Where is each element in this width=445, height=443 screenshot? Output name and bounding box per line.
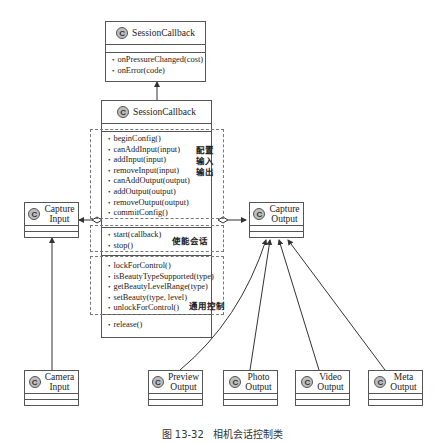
class-name-line: Camera [45, 372, 75, 382]
class-header: C Preview Output [149, 371, 202, 394]
class-name-line: Capture [44, 204, 74, 214]
methods-section [369, 400, 422, 405]
figure-caption: 图 13-32 相机会话控制类 [0, 426, 445, 441]
class-name-line: Output [170, 382, 196, 392]
class-preview-output: C Preview Output [148, 370, 203, 406]
class-name: Capture Input [44, 204, 74, 224]
class-header: C Capture Output [250, 203, 303, 226]
method: onError(code) [106, 66, 205, 77]
methods-section [25, 400, 78, 405]
class-header: C Photo Output [224, 371, 277, 394]
methods-section [224, 400, 277, 405]
other-methods: release() [102, 320, 142, 331]
class-icon: C [28, 208, 40, 220]
class-icon: C [253, 208, 265, 220]
class-name: SessionCallback [132, 28, 195, 38]
class-name: Meta Output [390, 372, 416, 392]
class-icon: C [116, 27, 128, 39]
class-name: Preview Output [168, 372, 199, 392]
note-enable: 使能会话 [172, 236, 208, 247]
methods-section [296, 400, 349, 405]
methods-section [149, 400, 202, 405]
attributes-section [106, 45, 205, 53]
class-name: SessionCallback [133, 107, 196, 117]
class-session-callback-top: C SessionCallback onPressureChanged(cost… [105, 21, 206, 82]
video-output-line [279, 240, 319, 370]
class-name-line: Output [271, 214, 297, 224]
method: release() [102, 320, 142, 331]
class-name-line: Meta [394, 372, 414, 382]
class-icon: C [117, 106, 129, 118]
methods-section [250, 232, 303, 237]
class-name-line: Input [49, 214, 69, 224]
class-name: Video Output [317, 372, 343, 392]
class-video-output: C Video Output [295, 370, 350, 406]
class-name-line: Output [390, 382, 416, 392]
class-header: C SessionCallback [106, 22, 205, 45]
class-header: C Camera Input [25, 371, 78, 394]
class-capture-output: C Capture Output [249, 202, 304, 238]
class-icon: C [152, 376, 164, 388]
class-name-line: Output [245, 382, 271, 392]
class-name-line: Output [317, 382, 343, 392]
class-name-line: Video [319, 372, 342, 382]
class-header: C Video Output [296, 371, 349, 394]
note-config: 配置 输入 输出 [196, 145, 214, 178]
class-icon: C [29, 376, 41, 388]
class-header: C Meta Output [369, 371, 422, 394]
class-name: Capture Output [269, 204, 299, 224]
class-header: C SessionCallback [102, 101, 211, 124]
class-name: Camera Input [45, 372, 75, 392]
method: onPressureChanged(cost) [106, 55, 205, 66]
class-capture-input: C Capture Input [24, 202, 79, 238]
meta-output-line [288, 240, 385, 370]
note-control: 通用控制 [189, 301, 225, 312]
class-name-line: Photo [247, 372, 269, 382]
class-name-line: Capture [269, 204, 299, 214]
class-name: Photo Output [245, 372, 271, 392]
class-name-line: Input [49, 382, 69, 392]
photo-output-line [250, 240, 270, 370]
class-photo-output: C Photo Output [223, 370, 278, 406]
class-icon: C [301, 376, 313, 388]
class-icon: C [374, 376, 386, 388]
class-icon: C [229, 376, 241, 388]
methods-section [25, 232, 78, 237]
class-header: C Capture Input [25, 203, 78, 226]
class-name-line: Preview [168, 372, 199, 382]
class-meta-output: C Meta Output [368, 370, 423, 406]
class-camera-input: C Camera Input [24, 370, 79, 406]
methods-section: onPressureChanged(cost) onError(code) [106, 53, 205, 76]
